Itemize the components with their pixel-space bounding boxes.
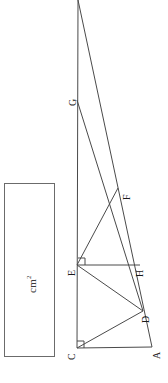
diagonal-T-to-A xyxy=(78,0,152,347)
answer-unit-exponent: 2 xyxy=(25,275,33,279)
diagonal-G-to-D xyxy=(77,100,143,311)
vertex-label-a: A xyxy=(152,352,162,359)
vertex-label-d: D xyxy=(141,316,151,323)
vertical-axis-T-to-C xyxy=(77,0,78,348)
vertex-label-f: F xyxy=(122,194,132,200)
vertex-label-c: C xyxy=(67,353,77,360)
segment-E-to-F xyxy=(77,188,118,265)
base-C-to-A xyxy=(77,347,152,348)
vertex-label-h: H xyxy=(135,270,145,277)
answer-input-box[interactable] xyxy=(4,183,55,357)
answer-unit-text: cm xyxy=(25,279,37,293)
vertex-label-e: E xyxy=(67,270,77,276)
answer-unit-label: cm2 xyxy=(25,275,38,293)
vertex-label-g: G xyxy=(68,99,78,106)
figure-segments xyxy=(77,0,152,348)
segment-C-to-D xyxy=(77,311,143,348)
figure-right-angle-marks xyxy=(77,258,85,348)
